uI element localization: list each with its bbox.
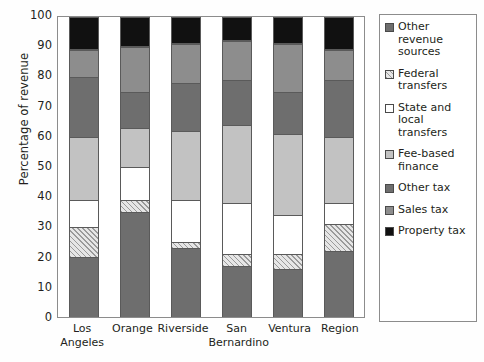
legend-swatch-icon bbox=[385, 184, 394, 193]
y-tick-label: 70 bbox=[12, 101, 52, 113]
bar-segment[interactable] bbox=[120, 92, 150, 128]
bar-segment[interactable] bbox=[120, 200, 150, 212]
stacked-bar-chart-figure: Percentage of revenue 010203040506070809… bbox=[0, 0, 484, 362]
legend-label: Property tax bbox=[398, 225, 466, 238]
bar-segment[interactable] bbox=[171, 248, 201, 317]
y-tick-label: 10 bbox=[12, 282, 52, 294]
bar-segment[interactable] bbox=[120, 47, 150, 92]
y-tick-label: 0 bbox=[12, 312, 52, 324]
y-tick-label: 80 bbox=[12, 71, 52, 83]
y-tick-label: 60 bbox=[12, 131, 52, 143]
bar-segment[interactable] bbox=[120, 128, 150, 167]
legend-swatch-icon bbox=[385, 150, 394, 159]
legend-swatch-icon bbox=[385, 104, 394, 113]
bar-segment[interactable] bbox=[273, 92, 303, 134]
legend-label: Sales tax bbox=[398, 204, 448, 217]
x-tick-label: SanBernardino bbox=[209, 322, 265, 362]
legend-label: State and local transfers bbox=[398, 102, 472, 140]
bar-segment[interactable] bbox=[222, 17, 252, 41]
bar-segment[interactable] bbox=[324, 50, 354, 80]
plot-area bbox=[57, 16, 365, 318]
bar-segment[interactable] bbox=[324, 203, 354, 224]
legend-item[interactable]: Fee-based finance bbox=[385, 148, 472, 173]
bar-segment[interactable] bbox=[324, 251, 354, 317]
bar-segment[interactable] bbox=[69, 17, 99, 50]
y-axis-tick-labels: 0102030405060708090100 bbox=[12, 16, 52, 318]
bar-group bbox=[58, 17, 364, 317]
bar-segment[interactable] bbox=[120, 212, 150, 317]
bar-segment[interactable] bbox=[171, 131, 201, 200]
bar-segment[interactable] bbox=[120, 17, 150, 47]
bar-segment[interactable] bbox=[171, 17, 201, 44]
stacked-bar[interactable] bbox=[222, 17, 252, 317]
bar-segment[interactable] bbox=[273, 134, 303, 215]
stacked-bar[interactable] bbox=[120, 17, 150, 317]
x-tick-label: Orange bbox=[107, 322, 157, 362]
legend-item[interactable]: Other revenue sources bbox=[385, 21, 472, 59]
bar-segment[interactable] bbox=[324, 17, 354, 50]
y-tick-label: 40 bbox=[12, 191, 52, 203]
bar-segment[interactable] bbox=[273, 215, 303, 254]
bar-segment[interactable] bbox=[171, 200, 201, 242]
bar-segment[interactable] bbox=[171, 44, 201, 83]
bar-segment[interactable] bbox=[222, 203, 252, 254]
bar-segment[interactable] bbox=[69, 227, 99, 257]
bar-segment[interactable] bbox=[222, 41, 252, 80]
x-tick-label: Riverside bbox=[157, 322, 208, 362]
legend-swatch-icon bbox=[385, 227, 394, 236]
y-tick-label: 30 bbox=[12, 222, 52, 234]
x-axis-tick-labels: LosAngelesOrangeRiversideSanBernardinoVe… bbox=[57, 322, 365, 362]
legend-label: Fee-based finance bbox=[398, 148, 472, 173]
y-tick-label: 100 bbox=[12, 10, 52, 22]
legend-item[interactable]: Property tax bbox=[385, 225, 472, 238]
bar-segment[interactable] bbox=[69, 77, 99, 137]
y-tick-label: 20 bbox=[12, 252, 52, 264]
bar-segment[interactable] bbox=[273, 254, 303, 269]
bar-segment[interactable] bbox=[324, 137, 354, 203]
legend-label: Federal transfers bbox=[398, 68, 472, 93]
bar-segment[interactable] bbox=[69, 200, 99, 227]
bar-segment[interactable] bbox=[222, 125, 252, 203]
x-tick-label: Region bbox=[315, 322, 365, 362]
legend-label: Other tax bbox=[398, 182, 450, 195]
bar-segment[interactable] bbox=[273, 44, 303, 92]
bar-segment[interactable] bbox=[69, 257, 99, 317]
legend-item[interactable]: State and local transfers bbox=[385, 102, 472, 140]
bar-segment[interactable] bbox=[120, 167, 150, 200]
bar-segment[interactable] bbox=[222, 80, 252, 125]
chart-legend: Other revenue sourcesFederal transfersSt… bbox=[379, 14, 477, 322]
legend-label: Other revenue sources bbox=[398, 21, 472, 59]
bar-segment[interactable] bbox=[69, 50, 99, 77]
bar-segment[interactable] bbox=[273, 269, 303, 317]
x-tick-label: Ventura bbox=[265, 322, 315, 362]
legend-item[interactable]: Other tax bbox=[385, 182, 472, 195]
stacked-bar[interactable] bbox=[273, 17, 303, 317]
bar-segment[interactable] bbox=[273, 17, 303, 44]
y-tick-label: 50 bbox=[12, 161, 52, 173]
legend-item[interactable]: Sales tax bbox=[385, 204, 472, 217]
legend-item[interactable]: Federal transfers bbox=[385, 68, 472, 93]
y-tick-label: 90 bbox=[12, 40, 52, 52]
stacked-bar[interactable] bbox=[171, 17, 201, 317]
bar-segment[interactable] bbox=[69, 137, 99, 200]
bar-segment[interactable] bbox=[171, 83, 201, 131]
x-tick-label: LosAngeles bbox=[57, 322, 107, 362]
bar-segment[interactable] bbox=[222, 266, 252, 317]
legend-swatch-icon bbox=[385, 70, 394, 79]
bar-segment[interactable] bbox=[324, 224, 354, 251]
stacked-bar[interactable] bbox=[69, 17, 99, 317]
stacked-bar[interactable] bbox=[324, 17, 354, 317]
bar-segment[interactable] bbox=[222, 254, 252, 266]
legend-swatch-icon bbox=[385, 23, 394, 32]
bar-segment[interactable] bbox=[324, 80, 354, 137]
legend-swatch-icon bbox=[385, 206, 394, 215]
